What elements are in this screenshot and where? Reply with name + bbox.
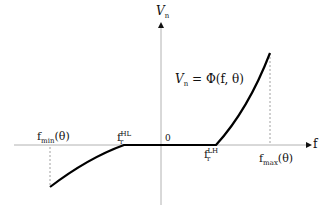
x-axis-arrow-icon [306,142,312,148]
y-axis-label-sub: n [165,12,170,20]
f-hl-label: frHL [117,131,131,144]
f-lh-label: frLH [204,148,218,161]
f-max-arg: (θ) [278,152,293,165]
y-axis-label: Vn [156,4,169,18]
f-lh-sub: r [207,155,210,163]
equation-rhs: = Φ(f, θ) [192,72,244,86]
x-axis-label-text: f [313,137,317,151]
y-axis-arrow-icon [158,22,164,28]
f-lh-sup: LH [207,147,218,155]
f-max-sub: max [263,159,278,167]
f-min-arg: (θ) [54,130,69,143]
f-min-sub: min [41,137,54,145]
y-axis-label-base: V [156,4,165,18]
origin-label: 0 [165,133,171,143]
f-max-label: fmax(θ) [259,152,293,165]
f-min-label: fmin(θ) [37,130,70,143]
equation-label: Vn = Φ(f, θ) [175,72,244,86]
diagram-canvas [0,0,330,211]
x-axis-label: f [313,137,317,151]
origin-label-text: 0 [165,133,171,143]
equation-lhs-sub: n [184,80,189,88]
f-hl-sup: HL [120,130,131,138]
f-hl-sub: r [120,138,123,146]
equation-lhs: V [175,72,184,86]
